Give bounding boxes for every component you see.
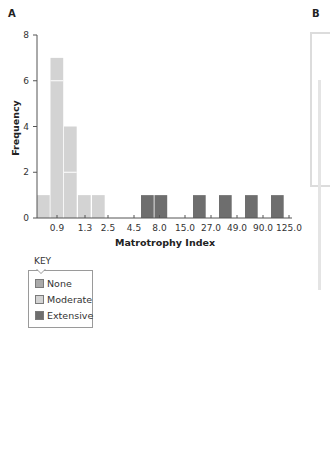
- x-tick-label: 8.0: [152, 223, 167, 233]
- bar-extensive: [219, 195, 232, 218]
- bar-extensive: [141, 195, 154, 218]
- legend-box: None Moderate Extensive: [28, 270, 93, 328]
- x-tick-label: 49.0: [227, 223, 247, 233]
- bar-extensive: [271, 195, 284, 218]
- y-tick-label: 6: [23, 76, 29, 86]
- x-tick-label: 1.3: [78, 223, 92, 233]
- x-tick-label: 4.5: [127, 223, 141, 233]
- x-tick-label: 15.0: [175, 223, 195, 233]
- bar-extensive: [155, 195, 168, 218]
- legend-label-moderate: Moderate: [47, 294, 92, 305]
- legend-title: KEY: [34, 256, 51, 266]
- legend-item-moderate: Moderate: [35, 293, 92, 305]
- x-tick-label: 125.0: [276, 223, 302, 233]
- legend-label-none: None: [47, 278, 72, 289]
- x-axis-title: Matrotrophy Index: [115, 237, 215, 248]
- y-axis-title: Frequency: [10, 99, 21, 155]
- bars-group: [37, 58, 284, 218]
- bar-extensive: [245, 195, 258, 218]
- bar-moderate: [51, 58, 64, 218]
- y-tick-label: 2: [23, 167, 29, 177]
- bar-moderate: [78, 195, 91, 218]
- swatch-extensive: [35, 311, 44, 320]
- legend-pointer-inner: [37, 269, 45, 273]
- y-tick-label: 8: [23, 30, 29, 40]
- legend-item-none: None: [35, 277, 72, 289]
- bar-moderate: [92, 195, 105, 218]
- legend-item-extensive: Extensive: [35, 309, 93, 321]
- panel-b-line: [318, 80, 321, 290]
- y-tick-label: 0: [23, 213, 29, 223]
- bar-extensive: [193, 195, 206, 218]
- x-tick-label: 90.0: [253, 223, 273, 233]
- bar-moderate: [37, 195, 50, 218]
- swatch-moderate: [35, 295, 44, 304]
- histogram-chart: 024680.91.32.54.58.015.027.049.090.0125.…: [0, 0, 321, 260]
- x-tick-label: 0.9: [50, 223, 65, 233]
- x-tick-label: 2.5: [101, 223, 115, 233]
- legend-label-extensive: Extensive: [47, 310, 93, 321]
- y-tick-label: 4: [23, 122, 29, 132]
- swatch-none: [35, 279, 44, 288]
- x-tick-label: 27.0: [201, 223, 221, 233]
